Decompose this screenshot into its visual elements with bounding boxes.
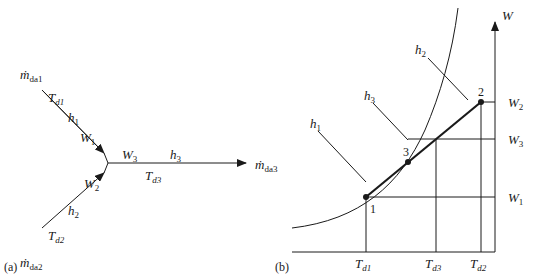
state-point-2 xyxy=(478,99,484,105)
h3-label: h3 xyxy=(364,88,376,105)
outlet-humidity-label: W3 xyxy=(122,147,138,164)
enthalpy-line-h2 xyxy=(428,58,468,100)
point-3-label: 3 xyxy=(403,145,409,159)
state-point-1 xyxy=(363,194,369,200)
h1-label: h1 xyxy=(310,116,321,133)
inlet-1-massflow-label: ṁda1 xyxy=(20,67,42,84)
panel-a-caption: (a) xyxy=(4,260,17,274)
junction-lower xyxy=(104,163,108,173)
mixing-line xyxy=(366,102,481,197)
inlet-1-temp-label: Td1 xyxy=(48,90,64,107)
saturation-curve xyxy=(292,8,458,228)
junction-upper xyxy=(104,153,108,163)
inlet-2-massflow-label: ṁda2 xyxy=(20,255,42,272)
adiabatic-mixing-diagram: ṁda1 Td1 h1 W1 W2 h2 Td2 ṁda2 W3 h3 Td3 … xyxy=(0,0,549,276)
panel-b-caption: (b) xyxy=(275,260,289,274)
w3-label: W3 xyxy=(508,132,524,149)
point-1-label: 1 xyxy=(370,202,376,216)
inlet-2-temp-label: Td2 xyxy=(48,228,65,245)
outlet-enthalpy-label: h3 xyxy=(170,147,182,164)
h2-label: h2 xyxy=(415,42,426,59)
panel-a: ṁda1 Td1 h1 W1 W2 h2 Td2 ṁda2 W3 h3 Td3 … xyxy=(4,67,278,274)
outlet-massflow-label: ṁda3 xyxy=(255,157,278,174)
panel-b: W 1 2 3 h1 h2 h3 W2 W3 W1 Td1 T xyxy=(275,8,524,274)
inlet-2-enthalpy-label: h2 xyxy=(68,203,79,220)
inlet-1-humidity-label: W1 xyxy=(80,130,95,147)
inlet-1-enthalpy-label: h1 xyxy=(68,110,79,127)
state-point-3 xyxy=(405,159,411,165)
td1-label: Td1 xyxy=(355,256,371,273)
enthalpy-line-h3 xyxy=(373,103,408,140)
w1-label: W1 xyxy=(508,190,523,207)
w-axis-label: W xyxy=(502,8,514,23)
w2-label: W2 xyxy=(508,95,523,112)
enthalpy-line-h1 xyxy=(318,131,366,182)
outlet-temp-label: Td3 xyxy=(145,168,162,185)
td2-label: Td2 xyxy=(470,256,487,273)
point-2-label: 2 xyxy=(478,85,484,99)
td3-label: Td3 xyxy=(425,256,442,273)
